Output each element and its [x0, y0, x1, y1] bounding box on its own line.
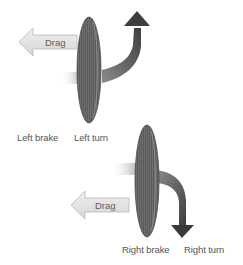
brake-disc-icon	[135, 125, 159, 237]
left-brake-label: Left brake	[17, 132, 58, 143]
drag-label: Drag	[95, 200, 116, 211]
turn-arrow-down-icon	[156, 170, 194, 238]
right-brake-label: Right brake	[122, 244, 169, 255]
drag-label: Drag	[45, 37, 66, 48]
right-turn-label: Right turn	[184, 244, 224, 255]
left-wheel-group: Drag	[19, 11, 150, 123]
brake-disc-icon	[77, 17, 101, 123]
turn-arrow-up-icon	[102, 11, 150, 83]
left-turn-label: Left turn	[74, 132, 108, 143]
axle-stub-icon	[110, 163, 138, 175]
